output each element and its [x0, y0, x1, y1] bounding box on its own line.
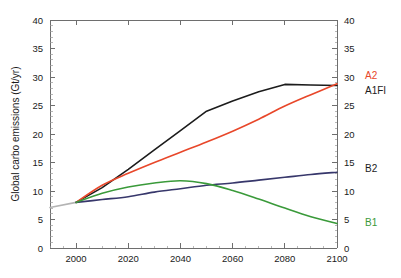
- y-axis-title: Global carbo emissions (Gt/yr): [10, 66, 21, 201]
- y-tick-label-right: 0: [344, 243, 349, 254]
- series-label-a2: A2: [365, 70, 378, 81]
- x-axis-tick-labels: 200020202040206020802100: [66, 253, 348, 264]
- y-tick-label: 10: [32, 186, 43, 197]
- series-line-historical: [50, 202, 76, 207]
- plot-frame: [50, 20, 337, 248]
- x-tick-label: 2020: [118, 253, 139, 264]
- y-tick-label: 30: [32, 72, 43, 83]
- y-axis-tick-labels-right: 0510152025303540: [344, 15, 355, 254]
- y-tick-label-right: 20: [344, 129, 355, 140]
- y-tick-label: 20: [32, 129, 43, 140]
- chart-container: 0510152025303540 0510152025303540 200020…: [0, 0, 401, 278]
- y-tick-label-right: 25: [344, 100, 355, 111]
- y-axis-tick-labels-left: 0510152025303540: [32, 15, 43, 254]
- series-line-b1: [76, 181, 337, 224]
- series-label-a1fi: A1FI: [365, 85, 386, 96]
- y-tick-label: 40: [32, 15, 43, 26]
- y-tick-label-right: 30: [344, 72, 355, 83]
- y-tick-label-right: 10: [344, 186, 355, 197]
- y-tick-label: 35: [32, 43, 43, 54]
- y-tick-label-right: 15: [344, 157, 355, 168]
- y-axis-title-group: Global carbo emissions (Gt/yr): [10, 66, 21, 201]
- y-tick-label: 25: [32, 100, 43, 111]
- y-tick-label-right: 35: [344, 43, 355, 54]
- series-label-b1: B1: [365, 217, 378, 228]
- data-series-lines: [50, 84, 337, 224]
- series-line-b2: [76, 172, 337, 202]
- y-tick-label-right: 40: [344, 15, 355, 26]
- x-tick-label: 2100: [326, 253, 347, 264]
- emissions-line-chart: 0510152025303540 0510152025303540 200020…: [0, 0, 401, 278]
- y-tick-label-right: 5: [344, 214, 349, 225]
- series-inline-labels: A1FIA2B2B1: [365, 70, 386, 228]
- y-tick-label: 5: [38, 214, 43, 225]
- x-tick-label: 2080: [274, 253, 295, 264]
- series-label-b2: B2: [365, 163, 378, 174]
- y-tick-label: 15: [32, 157, 43, 168]
- tick-marks: [50, 20, 337, 248]
- x-tick-label: 2060: [222, 253, 243, 264]
- x-tick-label: 2000: [66, 253, 87, 264]
- x-tick-label: 2040: [170, 253, 191, 264]
- y-tick-label: 0: [38, 243, 43, 254]
